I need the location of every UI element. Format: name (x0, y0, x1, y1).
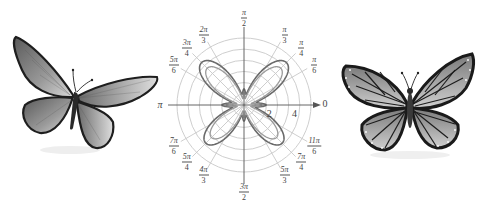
angle-value: π (157, 99, 162, 110)
radial-tick-label: 2 (267, 109, 272, 119)
denominator: 3 (282, 176, 286, 185)
angle-label-a90: π2 (241, 9, 247, 28)
numerator: 4π (198, 166, 208, 176)
angle-label-a30: π6 (311, 55, 317, 74)
angle-label-a135: 3π4 (182, 38, 192, 57)
numerator: π (281, 25, 287, 35)
fraction: 5π6 (169, 55, 179, 74)
fraction: 7π6 (169, 136, 179, 155)
fraction: 7π4 (296, 153, 306, 172)
radial-tick-label: 4 (292, 109, 297, 119)
denominator: 6 (172, 65, 176, 74)
angle-label-a60: π3 (281, 25, 287, 44)
numerator: 7π (296, 153, 306, 163)
fraction: 3π4 (182, 38, 192, 57)
angle-label-a300: 5π3 (279, 166, 289, 185)
angle-label-a225: 5π4 (182, 153, 192, 172)
denominator: 4 (185, 163, 189, 172)
angle-label-a330: 11π6 (307, 136, 320, 155)
angle-label-a45: π4 (298, 38, 304, 57)
denominator: 4 (299, 48, 303, 57)
denominator: 4 (299, 163, 303, 172)
fraction: 5π3 (279, 166, 289, 185)
angle-label-a315: 7π4 (296, 153, 306, 172)
figure-canvas (0, 0, 478, 209)
numerator: 5π (182, 153, 192, 163)
numerator: 3π (182, 38, 192, 48)
denominator: 3 (201, 176, 205, 185)
angle-label-a210: 7π6 (169, 136, 179, 155)
fraction: 2π3 (198, 25, 208, 44)
angle-label-a150: 5π6 (169, 55, 179, 74)
right-butterfly-image (343, 54, 474, 159)
numerator: 5π (169, 55, 179, 65)
angle-label-a240: 4π3 (198, 166, 208, 185)
fraction: 3π2 (239, 183, 249, 202)
denominator: 2 (242, 193, 246, 202)
numerator: π (311, 55, 317, 65)
numerator: 2π (198, 25, 208, 35)
numerator: 11π (307, 136, 320, 146)
numerator: π (241, 9, 247, 19)
fraction: 5π4 (182, 153, 192, 172)
angle-label-a120: 2π3 (198, 25, 208, 44)
fraction: 4π3 (198, 166, 208, 185)
denominator: 2 (242, 19, 246, 28)
angle-label-a180: π (157, 100, 162, 110)
denominator: 6 (172, 146, 176, 155)
numerator: 7π (169, 136, 179, 146)
fraction: 11π6 (307, 136, 320, 155)
left-butterfly-image (14, 37, 157, 154)
denominator: 4 (185, 48, 189, 57)
numerator: 3π (239, 183, 249, 193)
arrow-right-icon (313, 102, 321, 108)
numerator: π (298, 38, 304, 48)
numerator: 5π (279, 166, 289, 176)
fraction: π3 (281, 25, 287, 44)
fraction: π2 (241, 9, 247, 28)
fraction: π6 (311, 55, 317, 74)
denominator: 3 (282, 35, 286, 44)
angle-label-a0: 0 (323, 99, 328, 109)
denominator: 6 (312, 146, 316, 155)
angle-label-a270: 3π2 (239, 183, 249, 202)
angle-value: 0 (323, 98, 328, 109)
denominator: 6 (312, 65, 316, 74)
fraction: π4 (298, 38, 304, 57)
denominator: 3 (201, 35, 205, 44)
